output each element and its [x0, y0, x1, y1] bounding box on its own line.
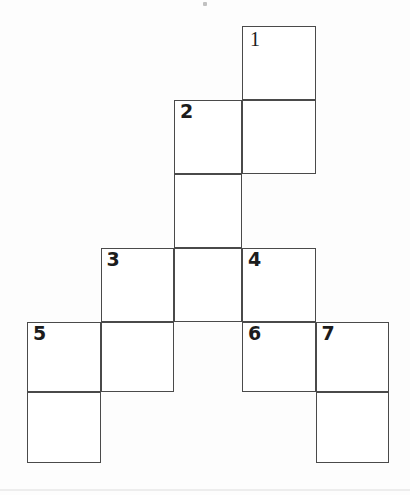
cell-r3c1[interactable]: 3 — [101, 248, 175, 322]
cell-r4c1[interactable] — [101, 322, 175, 392]
clue-number-2: 2 — [180, 102, 193, 122]
cell-r3c2[interactable] — [174, 248, 242, 322]
cell-r1c2[interactable]: 2 — [174, 100, 242, 174]
cell-r5c4[interactable] — [316, 392, 390, 463]
clue-number-3: 3 — [107, 250, 120, 270]
cell-r4c3[interactable]: 6 — [242, 322, 316, 392]
cell-r4c0[interactable]: 5 — [27, 322, 101, 392]
scan-speck-top — [203, 2, 207, 6]
scan-edge-smudge-bottom — [0, 489, 410, 491]
clue-number-4: 4 — [248, 250, 261, 270]
clue-number-6: 6 — [248, 324, 261, 344]
clue-number-5: 5 — [33, 324, 46, 344]
crossword-grid: 1234567 — [0, 0, 410, 495]
cell-r5c0[interactable] — [27, 392, 101, 463]
cell-r1c3[interactable] — [242, 100, 316, 174]
cell-r0c3[interactable]: 1 — [242, 26, 316, 100]
crossword-figure: 1234567 — [0, 0, 410, 495]
cell-r2c2[interactable] — [174, 174, 242, 248]
cell-r3c3[interactable]: 4 — [242, 248, 316, 322]
clue-number-7: 7 — [322, 324, 335, 344]
clue-number-1: 1 — [250, 29, 260, 50]
cell-r4c4[interactable]: 7 — [316, 322, 390, 392]
